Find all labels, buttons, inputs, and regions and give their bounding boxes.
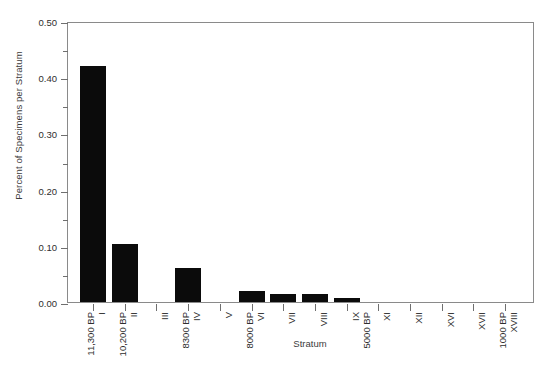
- bp-label: 10,200 BP: [117, 312, 128, 356]
- x-tick-label-xvii: XVII: [476, 312, 487, 330]
- y-tick-label: 0.50: [15, 17, 57, 28]
- y-tick-major: [61, 192, 68, 193]
- x-tick: [188, 304, 189, 311]
- y-tick-label: 0.20: [15, 185, 57, 196]
- x-tick-label-vii: VII: [286, 312, 297, 324]
- y-tick-label: 0.40: [15, 73, 57, 84]
- x-tick: [252, 304, 253, 311]
- x-tick: [347, 304, 348, 311]
- bar-ix: [334, 298, 360, 302]
- x-tick: [410, 304, 411, 311]
- x-tick-label-xvi: XVI: [445, 312, 456, 327]
- bar-i: [80, 66, 106, 302]
- y-tick-major: [61, 135, 68, 136]
- y-tick-major: [61, 248, 68, 249]
- y-tick-major: [61, 79, 68, 80]
- x-axis-title: Stratum: [293, 338, 326, 349]
- x-tick-label-v: V: [223, 312, 234, 318]
- x-tick: [315, 304, 316, 311]
- y-tick-label: 0.10: [15, 241, 57, 252]
- y-tick-label: 0.30: [15, 129, 57, 140]
- y-tick-label: 0.00: [15, 298, 57, 309]
- x-tick: [473, 304, 474, 311]
- x-tick: [220, 304, 221, 311]
- plot-area: [67, 22, 534, 303]
- x-tick: [378, 304, 379, 311]
- x-tick-label-viii: VIII: [318, 312, 329, 326]
- x-tick-label-vi: VI: [255, 312, 266, 321]
- y-tick-major: [61, 304, 68, 305]
- x-tick: [93, 304, 94, 311]
- y-tick-major: [61, 23, 68, 24]
- x-tick: [283, 304, 284, 311]
- y-tick-minor: [63, 164, 68, 165]
- x-tick: [125, 304, 126, 311]
- bar-ii: [112, 244, 138, 302]
- y-tick-minor: [63, 51, 68, 52]
- x-tick-label-iv: IV: [191, 312, 202, 321]
- bar-vi: [239, 291, 265, 302]
- x-tick-label-xviii: XVIII: [508, 312, 519, 333]
- bp-label: 1000 BP: [497, 312, 508, 348]
- x-tick: [505, 304, 506, 311]
- y-tick-minor: [63, 107, 68, 108]
- bar-vii: [270, 294, 296, 302]
- bp-label: 8300 BP: [180, 312, 191, 348]
- bar-viii: [302, 294, 328, 302]
- x-tick-label-xii: XII: [413, 312, 424, 324]
- chart-page: Percent of Specimens per Stratum 0.000.1…: [0, 0, 553, 387]
- bar-iv: [175, 268, 201, 302]
- y-tick-minor: [63, 220, 68, 221]
- bp-label: 5000 BP: [361, 312, 372, 348]
- y-axis-title: Percent of Specimens per Stratum: [13, 0, 24, 256]
- y-tick-minor: [63, 276, 68, 277]
- x-tick-label-ix: IX: [350, 312, 361, 321]
- x-tick-label-xi: XI: [381, 312, 392, 321]
- bp-label: 11,300 BP: [85, 312, 96, 356]
- x-tick-label-ii: II: [128, 312, 139, 317]
- x-tick-label-iii: III: [159, 312, 170, 320]
- x-tick: [156, 304, 157, 311]
- x-tick-label-i: I: [96, 312, 107, 315]
- x-tick: [442, 304, 443, 311]
- bp-label: 8000 BP: [244, 312, 255, 348]
